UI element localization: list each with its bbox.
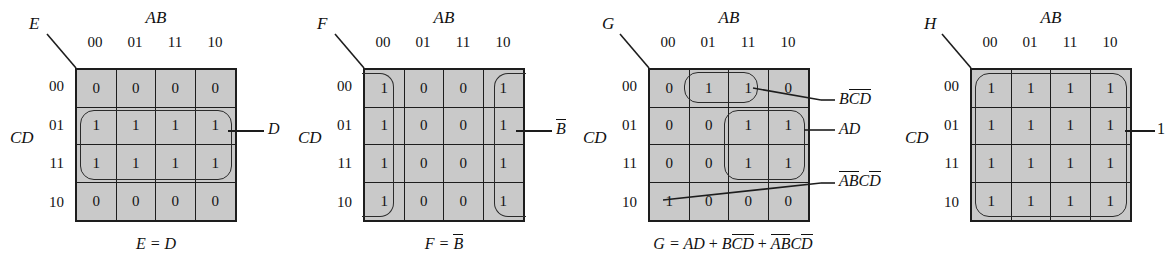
leader-line-Bbar	[516, 130, 552, 132]
eq-plus-2: +	[758, 235, 767, 252]
term-label-BCbarDbar: BCD	[839, 90, 871, 108]
eq-term2-overbar-D: D	[742, 235, 754, 253]
overbar-B: B	[556, 120, 566, 138]
cell-r00-c00: 1	[972, 70, 1012, 108]
eq-lhs: F	[425, 235, 435, 252]
term-label-D: D	[268, 120, 280, 138]
eq-term3-overbar-A: A	[771, 235, 781, 253]
cell-r01-c11: 1	[156, 108, 196, 146]
overbar-C: C	[849, 90, 860, 108]
cell-r11-c10: 1	[1091, 145, 1131, 183]
overbar-A: A	[839, 172, 849, 190]
eq-term-AD: AD	[683, 235, 704, 252]
cell-r11-c11: 0	[444, 145, 484, 183]
cell-r01-c00: 1	[972, 108, 1012, 146]
term-C: C	[859, 172, 870, 189]
term-label-one: 1	[1157, 120, 1165, 138]
cell-r10-c01: 0	[405, 183, 445, 221]
cell-r11-c01: 1	[117, 145, 157, 183]
term-label-AD: AD	[839, 120, 860, 138]
cell-r00-c10: 1	[1091, 70, 1131, 108]
eq-rhs: D	[165, 235, 177, 252]
equation-G: G = AD + BCD + ABCD	[613, 235, 853, 253]
eq-term3-overbar-B: B	[781, 235, 791, 253]
cell-r01-c01: 0	[405, 108, 445, 146]
cell-r01-c01: 1	[117, 108, 157, 146]
eq-rhs-overbar-B: B	[453, 235, 463, 253]
equation-F: F = B	[363, 235, 525, 253]
leader-line-D	[228, 130, 264, 132]
eq-plus-1: +	[709, 235, 718, 252]
term-label-Bbar: B	[556, 120, 566, 138]
overbar-D: D	[869, 172, 881, 190]
overbar-D: D	[859, 90, 871, 108]
kmap-grid-E: 0 0 0 0 1 1 1 1 1 1 1 1 0 0 0 0	[75, 68, 237, 222]
cell-r11-c00: 1	[972, 145, 1012, 183]
cell-r11-c11: 1	[156, 145, 196, 183]
eq-term2-B: B	[722, 235, 732, 252]
cell-r01-c11: 1	[1051, 108, 1091, 146]
kmap-E: AB 00 01 11 10 CD 00 01 11 10 E 0 0 0 0 …	[0, 0, 290, 271]
eq-equals: =	[669, 235, 680, 252]
eq-lhs: E	[136, 235, 146, 252]
group-loop-Bbar-right	[494, 73, 526, 217]
leader-line-one	[1125, 130, 1155, 132]
term-label-ABarBBarCDBar: ABCD	[839, 172, 881, 190]
kmap-G: AB 00 01 11 10 CD 00 01 11 10 G 0 1 1 0 …	[573, 0, 873, 271]
cell-r00-c00: 0	[77, 70, 117, 108]
cell-r10-c11: 0	[444, 183, 484, 221]
kmap-grid-H: 1 1 1 1 1 1 1 1 1 1 1 1 1 1 1 1	[970, 68, 1132, 222]
cell-r01-c00: 1	[77, 108, 117, 146]
cell-r10-c01: 1	[1012, 183, 1052, 221]
eq-term3-overbar-D: D	[801, 235, 813, 253]
cell-r00-c01: 0	[405, 70, 445, 108]
cell-r10-c01: 0	[117, 183, 157, 221]
group-loop-Bbar-left	[362, 73, 394, 217]
cell-r11-c01: 1	[1012, 145, 1052, 183]
eq-equals: =	[150, 235, 161, 252]
cell-r11-c00: 1	[77, 145, 117, 183]
eq-term2-overbar-C: C	[732, 235, 743, 253]
cell-r01-c11: 0	[444, 108, 484, 146]
cell-r10-c00: 1	[972, 183, 1012, 221]
cell-r01-c01: 1	[1012, 108, 1052, 146]
annotation-leader-lines	[573, 0, 873, 271]
cell-r10-c10: 0	[196, 183, 236, 221]
eq-equals: =	[439, 235, 450, 252]
cell-r11-c11: 1	[1051, 145, 1091, 183]
cell-r10-c10: 1	[1091, 183, 1131, 221]
cell-r00-c01: 1	[1012, 70, 1052, 108]
cell-r00-c11: 0	[444, 70, 484, 108]
term-B: B	[839, 90, 849, 107]
cell-r10-c00: 0	[77, 183, 117, 221]
cell-r11-c10: 1	[196, 145, 236, 183]
kmap-F: AB 00 01 11 10 CD 00 01 11 10 F 1 0 0 1 …	[288, 0, 578, 271]
eq-term3-C: C	[790, 235, 801, 252]
kmap-H: AB 00 01 11 10 CD 00 01 11 10 H 1 1 1 1 …	[895, 0, 1158, 271]
eq-lhs: G	[653, 235, 665, 252]
cell-r00-c11: 0	[156, 70, 196, 108]
overbar-B: B	[849, 172, 859, 190]
cell-r00-c01: 0	[117, 70, 157, 108]
equation-E: E = D	[75, 235, 237, 253]
cell-r10-c11: 1	[1051, 183, 1091, 221]
cell-r00-c11: 1	[1051, 70, 1091, 108]
cell-r11-c01: 0	[405, 145, 445, 183]
cell-r10-c11: 0	[156, 183, 196, 221]
cell-r01-c10: 1	[196, 108, 236, 146]
cell-r01-c10: 1	[1091, 108, 1131, 146]
cell-r00-c10: 0	[196, 70, 236, 108]
